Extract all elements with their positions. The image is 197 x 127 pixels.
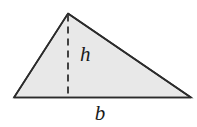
base-label: b xyxy=(95,101,106,125)
height-label: h xyxy=(80,42,91,66)
triangle-area-diagram: h b xyxy=(0,0,197,127)
